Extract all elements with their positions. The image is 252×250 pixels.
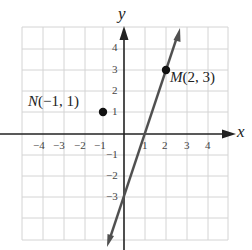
y-tick-label: −3 — [106, 190, 118, 202]
point-N-label: N(−1, 1) — [28, 93, 79, 110]
point-M — [162, 66, 170, 74]
y-tick-label: −1 — [106, 148, 118, 160]
x-axis-arrow-icon — [222, 130, 236, 139]
x-tick-label: 4 — [205, 139, 211, 151]
y-tick-label: −2 — [106, 169, 118, 181]
y-tick-label: 1 — [112, 105, 118, 117]
point-N-letter: N — [28, 93, 38, 109]
x-tick-label: −4 — [33, 139, 45, 151]
line-arrow-up-icon — [174, 28, 181, 42]
x-tick-label: 3 — [184, 139, 190, 151]
y-axis-label: y — [118, 4, 126, 24]
point-M-label: M(2, 3) — [170, 69, 215, 86]
line-y-equals-3x-minus-3 — [107, 28, 181, 247]
point-N-coords: (−1, 1) — [38, 93, 79, 109]
x-tick-label: −2 — [74, 139, 86, 151]
point-N — [99, 108, 107, 116]
y-tick-label: 3 — [112, 63, 118, 75]
y-axis-arrow-icon — [120, 26, 129, 40]
coordinate-plane — [0, 0, 252, 250]
x-tick-label: 1 — [142, 139, 148, 151]
point-M-letter: M — [170, 69, 183, 85]
y-tick-label: 2 — [112, 84, 118, 96]
x-tick-label: −1 — [94, 139, 106, 151]
x-tick-label: 2 — [162, 139, 168, 151]
y-tick-label: 4 — [112, 41, 118, 53]
x-axis-label: x — [237, 122, 245, 142]
x-tick-label: −3 — [53, 139, 65, 151]
point-M-coords: (2, 3) — [183, 69, 216, 85]
